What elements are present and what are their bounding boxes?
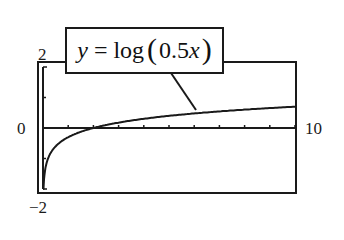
label-y: y bbox=[77, 37, 88, 64]
label-paren-close: ) bbox=[202, 32, 212, 66]
x-max-label: 10 bbox=[305, 120, 322, 137]
function-curve bbox=[43, 107, 295, 189]
label-paren-open: ( bbox=[147, 32, 157, 66]
label-x: x bbox=[189, 37, 200, 64]
label-equals-log: = log bbox=[88, 37, 144, 64]
y-max-label: 2 bbox=[38, 46, 47, 63]
function-label: y = log ( 0.5 x ) bbox=[65, 27, 224, 74]
label-leader-line bbox=[171, 73, 196, 110]
label-arg: 0.5 bbox=[159, 37, 189, 64]
x-min-label: 0 bbox=[17, 120, 26, 137]
y-min-label: −2 bbox=[29, 199, 47, 216]
